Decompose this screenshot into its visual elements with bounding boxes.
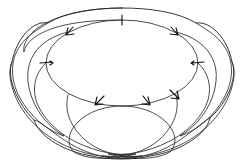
torus-svg: Torus wireframe diagram: [0, 0, 244, 164]
torus-figure: Torus wireframe diagram: [0, 0, 244, 164]
